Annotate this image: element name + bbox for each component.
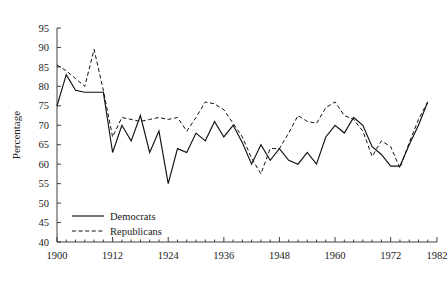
- chart-container: Percentage 404550556065707580859095 1900…: [0, 0, 448, 287]
- x-tick-label: 1960: [325, 250, 346, 261]
- y-tick-label: 80: [39, 81, 50, 92]
- y-tick-label: 60: [39, 159, 50, 170]
- legend-label-democrats: Democrats: [110, 211, 155, 222]
- y-tick-label: 40: [39, 237, 50, 248]
- y-tick-label: 55: [39, 178, 50, 189]
- line-chart: Percentage 404550556065707580859095 1900…: [0, 0, 448, 287]
- y-tick-label: 95: [39, 23, 50, 34]
- x-tick-label: 1936: [213, 250, 234, 261]
- series-line-republicans: [57, 49, 428, 174]
- legend-label-republicans: Republicans: [110, 226, 162, 237]
- x-tick-label: 1972: [380, 250, 401, 261]
- x-axis-tick-marks: [57, 237, 437, 242]
- series-line-democrats: [57, 75, 428, 184]
- x-tick-label: 1912: [102, 250, 123, 261]
- y-axis-title: Percentage: [10, 111, 22, 159]
- x-tick-label: 1982: [427, 250, 448, 261]
- y-tick-label: 75: [39, 100, 50, 111]
- y-tick-label: 85: [39, 62, 50, 73]
- x-tick-label: 1948: [269, 250, 290, 261]
- y-axis-tick-marks: [57, 28, 61, 242]
- y-tick-label: 65: [39, 139, 50, 150]
- chart-legend: Democrats Republicans: [72, 211, 162, 237]
- x-tick-label: 1924: [158, 250, 180, 261]
- y-tick-label: 90: [39, 42, 50, 53]
- y-tick-label: 50: [39, 198, 50, 209]
- x-tick-label: 1900: [47, 250, 68, 261]
- y-axis-title-text: Percentage: [10, 111, 22, 159]
- y-tick-label: 45: [39, 217, 50, 228]
- y-axis-tick-labels: 404550556065707580859095: [39, 23, 50, 248]
- y-tick-label: 70: [39, 120, 50, 131]
- x-axis-tick-labels: 19001912192419361948196019721982: [47, 250, 448, 261]
